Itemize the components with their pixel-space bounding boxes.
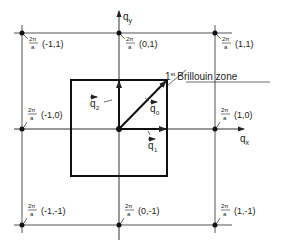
svg-text:a: a bbox=[30, 115, 34, 121]
point-label-m1-0: 2π a (-1,0) bbox=[28, 107, 63, 121]
svg-text:q: q bbox=[90, 98, 96, 109]
svg-text:(0,1): (0,1) bbox=[139, 39, 158, 49]
svg-text:a: a bbox=[127, 211, 131, 217]
svg-text:2π: 2π bbox=[221, 107, 228, 113]
vector-q1-label: q 1 bbox=[148, 139, 158, 153]
svg-text:a: a bbox=[30, 211, 34, 217]
svg-text:a: a bbox=[223, 211, 227, 217]
svg-text:a: a bbox=[223, 115, 227, 121]
svg-text:(1,-1): (1,-1) bbox=[234, 206, 256, 216]
svg-text:(-1,0): (-1,0) bbox=[41, 110, 63, 120]
svg-text:(-1,-1): (-1,-1) bbox=[41, 206, 66, 216]
svg-text:q: q bbox=[148, 140, 154, 151]
svg-text:2π: 2π bbox=[126, 36, 133, 42]
svg-text:2π: 2π bbox=[222, 36, 229, 42]
qy-axis-label: qy bbox=[123, 11, 133, 25]
svg-text:2π: 2π bbox=[221, 203, 228, 209]
vector-q0-label: q 0 bbox=[150, 102, 160, 116]
point-label-m1-m1: 2π a (-1,-1) bbox=[28, 203, 66, 217]
vectors bbox=[119, 81, 166, 129]
point-label-0-m1: 2π a (0,-1) bbox=[125, 203, 160, 217]
svg-text:q: q bbox=[150, 103, 156, 114]
svg-text:a: a bbox=[224, 44, 228, 50]
svg-text:2π: 2π bbox=[28, 107, 35, 113]
point-label-1-0: 2π a (1,0) bbox=[221, 107, 253, 121]
svg-text:(1,0): (1,0) bbox=[234, 110, 253, 120]
svg-text:a: a bbox=[31, 44, 35, 50]
svg-text:(0,-1): (0,-1) bbox=[138, 206, 160, 216]
point-label-1-m1: 2π a (1,-1) bbox=[221, 203, 256, 217]
reciprocal-lattice-diagram: qy qx 1stBrillouin zone q 2 q 0 q 1 2π a… bbox=[0, 0, 283, 247]
vector-q2-label: q 2 bbox=[90, 97, 100, 111]
svg-text:(1,1): (1,1) bbox=[235, 39, 254, 49]
svg-text:2π: 2π bbox=[29, 36, 36, 42]
vector-q0-arrow bbox=[119, 81, 166, 129]
svg-text:2: 2 bbox=[96, 105, 100, 111]
qx-axis-label: qx bbox=[240, 133, 250, 146]
svg-text:1: 1 bbox=[154, 147, 158, 153]
svg-text:2π: 2π bbox=[28, 203, 35, 209]
svg-text:(-1,1): (-1,1) bbox=[42, 39, 64, 49]
point-label-1-1: 2π a (1,1) bbox=[222, 36, 254, 50]
point-label-m1-1: 2π a (-1,1) bbox=[29, 36, 64, 50]
point-label-0-1: 2π a (0,1) bbox=[126, 36, 158, 50]
svg-text:2π: 2π bbox=[125, 203, 132, 209]
brillouin-zone-label: 1stBrillouin zone bbox=[165, 71, 238, 82]
point-labels: 2π a (-1,1) 2π a (0,1) 2π a (1,1) 2π a (… bbox=[28, 36, 256, 217]
svg-text:0: 0 bbox=[156, 110, 160, 116]
svg-text:a: a bbox=[128, 44, 132, 50]
